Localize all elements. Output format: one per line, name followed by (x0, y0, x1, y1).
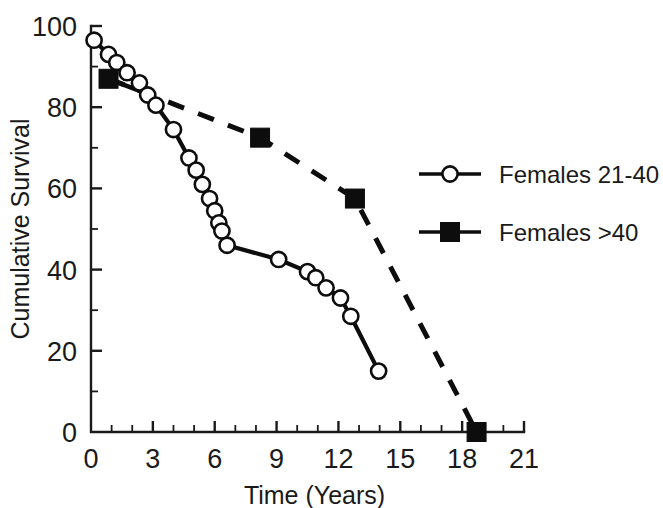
data-point-females-21-40-6 (148, 98, 163, 113)
legend-label-females-21-40: Females 21-40 (499, 161, 659, 188)
x-tick-label-6: 6 (207, 444, 222, 474)
legend-marker-open-circle (442, 166, 457, 181)
data-point-females-21-40-16 (271, 252, 286, 267)
y-tick-label-60: 60 (47, 174, 77, 204)
data-point-females-over-40-0 (99, 69, 118, 88)
data-point-females-over-40-1 (251, 128, 270, 147)
data-point-females-over-40-3 (467, 423, 486, 442)
y-tick-label-20: 20 (47, 337, 77, 367)
x-tick-label-9: 9 (269, 444, 284, 474)
x-tick-label-18: 18 (447, 444, 477, 474)
data-point-females-21-40-22 (371, 364, 386, 379)
data-point-females-21-40-10 (195, 177, 210, 192)
y-tick-label-0: 0 (62, 418, 77, 448)
y-axis-title: Cumulative Survival (6, 119, 34, 340)
x-tick-label-12: 12 (323, 444, 353, 474)
series-line-females-over-40 (109, 79, 477, 432)
x-tick-label-15: 15 (385, 444, 415, 474)
data-point-females-21-40-20 (333, 290, 348, 305)
legend-marker-filled-square (441, 223, 460, 242)
y-tick-label-100: 100 (32, 12, 77, 42)
data-point-females-21-40-9 (189, 163, 204, 178)
x-tick-label-0: 0 (83, 444, 98, 474)
data-point-females-over-40-2 (345, 189, 364, 208)
y-tick-label-80: 80 (47, 93, 77, 123)
x-axis-title: Time (Years) (244, 481, 385, 508)
data-point-females-21-40-7 (166, 122, 181, 137)
chart-canvas: 036912151821Time (Years)020406080100Cumu… (0, 0, 663, 508)
data-point-females-21-40-19 (318, 280, 333, 295)
data-point-females-21-40-21 (343, 309, 358, 324)
survival-chart-figure: 036912151821Time (Years)020406080100Cumu… (0, 0, 663, 508)
x-tick-label-3: 3 (145, 444, 160, 474)
legend-label-females-over-40: Females >40 (499, 219, 638, 246)
y-tick-label-40: 40 (47, 256, 77, 286)
data-point-females-21-40-15 (219, 238, 234, 253)
x-tick-label-21: 21 (509, 444, 539, 474)
data-point-females-21-40-0 (86, 33, 101, 48)
